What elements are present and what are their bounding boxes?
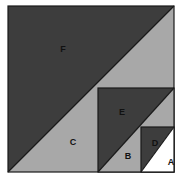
figure-canvas: F C E B D A xyxy=(0,0,193,185)
region-label-C: C xyxy=(70,137,77,147)
region-label-A: A xyxy=(168,157,175,167)
region-label-D: D xyxy=(152,138,159,148)
region-label-E: E xyxy=(119,107,125,117)
region-label-F: F xyxy=(60,44,66,54)
region-label-B: B xyxy=(125,151,132,161)
nested-squares-figure: F C E B D A xyxy=(0,0,193,185)
